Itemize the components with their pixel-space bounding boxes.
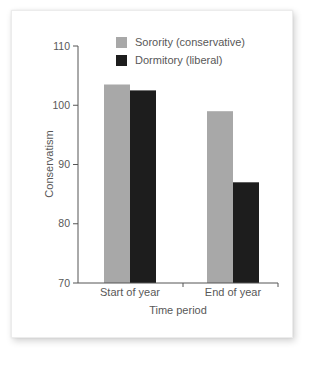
bar-sorority-start	[104, 85, 130, 284]
y-tick-label-90: 90	[58, 158, 70, 170]
y-tick-label-100: 100	[52, 99, 70, 111]
y-axis-title: Conservatism	[43, 130, 55, 197]
bar-dormitory-end	[233, 182, 259, 283]
x-category-start-of-year: Start of year	[100, 286, 160, 298]
x-category-end-of-year: End of year	[205, 286, 262, 298]
bars-group	[104, 85, 259, 284]
legend-item-dormitory: Dormitory (liberal)	[116, 55, 245, 66]
y-tick-label-80: 80	[58, 217, 70, 229]
legend: Sorority (conservative) Dormitory (liber…	[116, 37, 245, 66]
bar-sorority-end	[207, 111, 233, 283]
sorority-swatch-icon	[116, 37, 127, 48]
bar-dormitory-start	[130, 90, 156, 283]
legend-item-sorority: Sorority (conservative)	[116, 37, 245, 48]
legend-label-dormitory: Dormitory (liberal)	[135, 55, 222, 66]
dormitory-swatch-icon	[116, 55, 127, 66]
y-tick-labels-group: 708090100110	[52, 40, 70, 289]
y-tick-label-110: 110	[53, 40, 70, 52]
y-tick-label-70: 70	[58, 277, 70, 289]
legend-label-sorority: Sorority (conservative)	[135, 37, 245, 48]
x-axis-title: Time period	[149, 304, 207, 316]
